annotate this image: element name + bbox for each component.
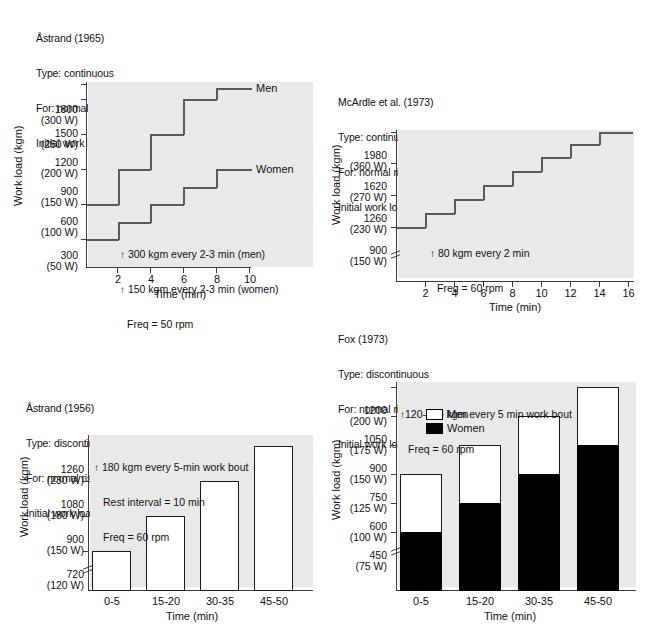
y-axis-title: Work load (kgm) [330,440,342,520]
x-tick-label: 30-35 [516,595,562,607]
x-tick-label: 45-50 [251,595,297,607]
y-tick [81,204,86,205]
citation: Fox (1973) [338,334,579,346]
up-arrow-icon: ↑ [94,462,99,473]
legend: Men Women [426,408,485,436]
y-tick-label: 450(75 W) [330,527,387,573]
y-tick [391,227,396,228]
chart-astrand-1956: Åstrand (1956) Type: discontinuous For: … [0,305,330,629]
x-tick-label: 0-5 [91,595,133,607]
y-tick [391,532,396,533]
legend-swatch-women [426,423,443,434]
y-tick [81,99,86,100]
citation: Åstrand (1965) [36,33,233,45]
bar-women-30-35 [518,474,560,591]
y-axis [396,382,397,591]
chart-fox-1973: Fox (1973) Type: discontinuous For: norm… [330,305,645,629]
protocol-type: Type: continuous [36,68,233,80]
y-tick [81,134,86,135]
y-tick [81,84,86,85]
y-tick [391,416,396,417]
x-axis-title: Time (min) [450,610,570,622]
y-tick [391,387,396,388]
bar-women-15-20 [459,503,501,591]
bar-women-0-5 [400,532,442,591]
legend-item-women: Women [426,422,485,434]
legend-label-men: Men [447,408,468,420]
x-tick-label: 10 [527,287,556,299]
up-arrow-icon: ↑ [430,248,435,259]
up-arrow-icon: ↑ [120,249,125,260]
x-tick-label: 15-20 [457,595,503,607]
y-tick [81,239,86,240]
chart-mcardle-1973: McArdle et al. (1973) Type: continuous F… [330,0,645,305]
y-tick-label: 720(120 W) [22,546,84,592]
bar-women-45-50 [577,445,619,591]
y-tick [391,503,396,504]
citation: Åstrand (1956) [26,403,181,415]
y-tick-label: 900(150 W) [330,222,387,268]
y-tick [391,132,396,133]
legend-item-men: Men [426,408,485,420]
up-arrow-icon: ↑ [120,284,125,295]
y-axis-title: Work load (kgm) [18,457,30,537]
y-axis-title: Work load (kgm) [330,145,342,225]
x-tick-label: 16 [614,287,643,299]
y-tick [391,445,396,446]
series-label-men: Men [256,82,277,94]
x-tick-label: 14 [585,287,614,299]
axis-break-icon [83,567,92,575]
x-tick-label: 15-20 [143,595,189,607]
x-tick-label: 12 [556,287,585,299]
series-label-women: Women [256,163,294,175]
legend-swatch-men [426,409,443,420]
y-tick [81,169,86,170]
y-tick [391,474,396,475]
x-axis-title: Time (min) [132,610,252,622]
legend-label-women: Women [447,422,485,434]
y-tick [391,195,396,196]
y-tick-label: 300(50 W) [14,227,78,273]
citation: McArdle et al. (1973) [338,97,493,109]
y-axis-title: Work load (kgm) [12,126,24,206]
axis-break-icon [391,252,400,260]
protocol-type: Type: discontinuous [338,369,579,381]
x-tick-label: 30-35 [197,595,243,607]
x-tick-label: 45-50 [575,595,621,607]
axis-break-icon [391,549,400,557]
y-tick [391,163,396,164]
x-tick-label: 0-5 [400,595,442,607]
annotation-box: ↑ 180 kgm every 5-min work bout Rest int… [94,438,248,568]
bar-45-50 [254,446,293,591]
chart-astrand-1965: Åstrand (1965) Type: continuous For: nor… [0,0,330,300]
